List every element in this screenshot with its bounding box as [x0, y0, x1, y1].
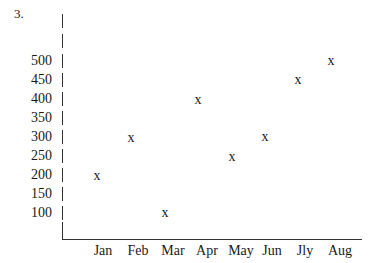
y-tick-label: 150 — [26, 186, 52, 202]
x-tick-label: Jun — [255, 243, 289, 259]
x-tick-label: Mar — [156, 243, 190, 259]
y-axis-segment — [62, 14, 63, 28]
y-axis-segment — [62, 92, 63, 106]
data-point-x-marker: x — [324, 54, 338, 68]
x-tick-label: Jan — [86, 243, 120, 259]
y-tick-label: 250 — [26, 148, 52, 164]
problem-number: 3. — [14, 6, 24, 22]
y-axis-segment — [62, 111, 63, 125]
data-point-x-marker: x — [225, 150, 239, 164]
x-tick-label: Aug — [323, 243, 357, 259]
data-point-x-marker: x — [291, 73, 305, 87]
data-point-x-marker: x — [90, 169, 104, 183]
y-tick-label: 400 — [26, 91, 52, 107]
y-axis-segment — [62, 73, 63, 87]
y-tick-label: 200 — [26, 167, 52, 183]
y-tick-label: 350 — [26, 110, 52, 126]
data-point-x-marker: x — [191, 93, 205, 107]
y-axis-segment — [62, 130, 63, 144]
y-tick-label: 100 — [26, 205, 52, 221]
y-axis-segment — [62, 187, 63, 201]
y-axis-segment — [62, 168, 63, 182]
data-point-x-marker: x — [158, 206, 172, 220]
y-tick-label: 300 — [26, 129, 52, 145]
y-axis-segment — [62, 54, 63, 68]
y-axis-segment — [62, 149, 63, 163]
data-point-x-marker: x — [124, 131, 138, 145]
y-tick-label: 500 — [26, 53, 52, 69]
y-axis-segment — [62, 206, 63, 220]
data-point-x-marker: x — [258, 130, 272, 144]
y-tick-label: 450 — [26, 72, 52, 88]
x-tick-label: Apr — [190, 243, 224, 259]
x-tick-label: Feb — [121, 243, 155, 259]
y-axis-line — [62, 222, 63, 240]
y-axis-segment — [62, 34, 63, 48]
x-tick-label: Jly — [288, 243, 322, 259]
x-axis-line — [62, 239, 362, 240]
x-tick-label: May — [224, 243, 258, 259]
